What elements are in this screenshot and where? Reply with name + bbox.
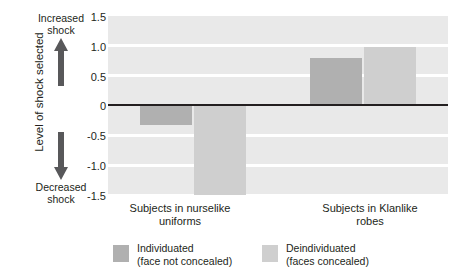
y-tick--1.0: -1.0 — [74, 160, 106, 172]
legend-text-deindividuated: Deindividuated (faces concealed) — [286, 242, 369, 268]
gridline--1.0 — [108, 164, 448, 167]
category-label-klanlike-line1: Subjects in Klanlike — [285, 202, 455, 215]
down-arrow-icon — [49, 132, 73, 180]
legend-text-individuated-line2: (face not concealed) — [137, 255, 232, 268]
y-tick-0.5: 0.5 — [74, 71, 106, 83]
legend-text-deindividuated-line2: (faces concealed) — [286, 255, 369, 268]
legend-text-individuated: Individuated (face not concealed) — [137, 242, 232, 268]
legend-swatch-deindividuated — [262, 245, 278, 262]
bar-klanlike-deindividuated — [364, 47, 416, 104]
y-tick--1.5: -1.5 — [74, 190, 106, 202]
category-label-nurselike-line1: Subjects in nurselike — [95, 202, 265, 215]
category-label-klanlike-line2: robes — [285, 215, 455, 228]
category-label-nurselike-line2: uniforms — [95, 215, 265, 228]
legend-text-deindividuated-line1: Deindividuated — [286, 242, 369, 255]
category-label-nurselike: Subjects in nurselike uniforms — [95, 202, 265, 228]
bar-nurselike-deindividuated — [194, 104, 246, 195]
up-arrow-icon — [49, 38, 73, 86]
category-label-klanlike: Subjects in Klanlike robes — [285, 202, 455, 228]
plot-area — [108, 16, 448, 196]
y-tick-1.0: 1.0 — [74, 41, 106, 53]
bar-nurselike-individuated — [140, 104, 192, 125]
gridline--1.5 — [108, 194, 448, 197]
legend: Individuated (face not concealed) Deindi… — [0, 242, 468, 276]
y-tick--0.5: -0.5 — [74, 130, 106, 142]
legend-swatch-individuated — [113, 245, 129, 262]
gridline--0.5 — [108, 134, 448, 137]
legend-text-individuated-line1: Individuated — [137, 242, 232, 255]
y-tick-1.5: 1.5 — [74, 11, 106, 23]
y-tick-0: 0 — [74, 100, 106, 112]
zero-baseline — [108, 104, 448, 106]
increased-shock-line2: shock — [28, 25, 94, 37]
bar-klanlike-individuated — [310, 58, 362, 104]
cropped-title-sliver — [0, 0, 468, 4]
